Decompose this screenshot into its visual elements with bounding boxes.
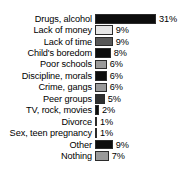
- bar-segment: [95, 83, 107, 93]
- bar-value-label: 8%: [114, 48, 127, 58]
- bar-category-label: Lack of time: [0, 37, 95, 47]
- bar-category-label: Lack of money: [0, 25, 95, 35]
- bar-row: Divorce1%: [0, 116, 192, 127]
- bar-track: 8%: [95, 47, 192, 58]
- bar-chart: Drugs, alcohol31%Lack of money9%Lack of …: [0, 0, 192, 182]
- bar-segment: [95, 94, 105, 104]
- bar-row: Lack of money9%: [0, 24, 192, 35]
- bar-track: 1%: [95, 116, 192, 127]
- bar-segment: [95, 25, 113, 35]
- bar-row: Child's boredom8%: [0, 47, 192, 58]
- bar-row: Sex, teen pregnancy1%: [0, 127, 192, 138]
- bar-category-label: Poor schools: [0, 59, 95, 69]
- bar-value-label: 9%: [116, 140, 129, 150]
- bar-row: Nothing7%: [0, 150, 192, 161]
- bar-row: Discipline, morals6%: [0, 70, 192, 81]
- bar-track: 9%: [95, 139, 192, 150]
- bar-track: 2%: [95, 105, 192, 116]
- bar-category-label: Divorce: [0, 117, 95, 127]
- bar-value-label: 1%: [100, 128, 113, 138]
- bar-category-label: Discipline, morals: [0, 71, 95, 81]
- bar-row: Peer groups5%: [0, 93, 192, 104]
- bar-value-label: 6%: [110, 59, 123, 69]
- bar-value-label: 6%: [110, 82, 123, 92]
- bar-track: 9%: [95, 36, 192, 47]
- bar-segment: [95, 105, 99, 115]
- bar-category-label: Sex, teen pregnancy: [0, 128, 95, 138]
- bar-segment: [95, 14, 156, 24]
- bar-category-label: Child's boredom: [0, 48, 95, 58]
- bar-value-label: 31%: [159, 14, 177, 24]
- bar-track: 9%: [95, 24, 192, 35]
- bar-row: TV, rock, movies2%: [0, 105, 192, 116]
- bar-track: 5%: [95, 93, 192, 104]
- bar-row: Other9%: [0, 139, 192, 150]
- chart-rows: Drugs, alcohol31%Lack of money9%Lack of …: [0, 13, 192, 162]
- bar-category-label: TV, rock, movies: [0, 105, 95, 115]
- bar-category-label: Other: [0, 140, 95, 150]
- bar-row: Drugs, alcohol31%: [0, 13, 192, 24]
- bar-segment: [95, 117, 97, 127]
- bar-track: 1%: [95, 127, 192, 138]
- bar-segment: [95, 48, 111, 58]
- bar-track: 31%: [95, 13, 192, 24]
- bar-category-label: Nothing: [0, 151, 95, 161]
- bar-row: Crime, gangs6%: [0, 82, 192, 93]
- bar-segment: [95, 140, 113, 150]
- bar-value-label: 9%: [116, 37, 129, 47]
- bar-category-label: Crime, gangs: [0, 82, 95, 92]
- bar-track: 6%: [95, 70, 192, 81]
- bar-row: Lack of time9%: [0, 36, 192, 47]
- bar-value-label: 5%: [108, 94, 121, 104]
- bar-track: 6%: [95, 82, 192, 93]
- bar-category-label: Peer groups: [0, 94, 95, 104]
- bar-row: Poor schools6%: [0, 59, 192, 70]
- bar-value-label: 7%: [112, 151, 125, 161]
- bar-segment: [95, 60, 107, 70]
- bar-segment: [95, 71, 107, 81]
- bar-value-label: 2%: [102, 105, 115, 115]
- bar-value-label: 6%: [110, 71, 123, 81]
- bar-value-label: 1%: [100, 117, 113, 127]
- bar-category-label: Drugs, alcohol: [0, 14, 95, 24]
- bar-segment: [95, 37, 113, 47]
- bar-segment: [95, 128, 97, 138]
- bar-track: 6%: [95, 59, 192, 70]
- bar-value-label: 9%: [116, 25, 129, 35]
- bar-track: 7%: [95, 150, 192, 161]
- bar-segment: [95, 151, 109, 161]
